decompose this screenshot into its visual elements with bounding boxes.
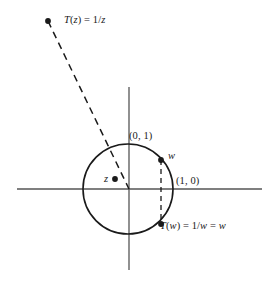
dashed-ray-tz-to-origin (48, 21, 129, 189)
label-t-of-w: T(w) = 1/w = w (160, 221, 226, 232)
label-w: w (168, 151, 175, 162)
label-t-of-z: T(z) = 1/z (64, 15, 105, 26)
label-point-0-1: (0, 1) (129, 131, 152, 142)
point-z (112, 176, 118, 182)
point-w (158, 157, 164, 163)
point-t-of-z (45, 18, 51, 24)
label-point-1-0: (1, 0) (176, 176, 199, 187)
complex-plane-figure (0, 0, 279, 293)
label-z: z (104, 174, 108, 185)
